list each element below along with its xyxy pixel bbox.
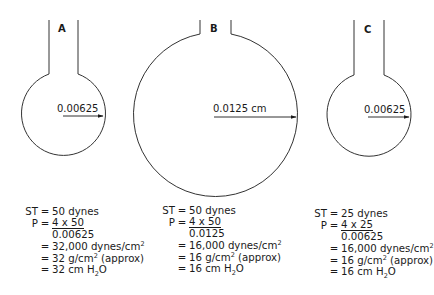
equals-sign: = [38,253,52,265]
bubble-c-letter: C [364,24,371,35]
bubble-a-radius-label: 0.00625 [57,103,98,114]
equals-sign: = [38,241,52,253]
surface-tension-value: 25 dynes [341,208,388,220]
result-dynes: 16,000 dynes/cm2 [341,243,434,255]
result-dynes: 16,000 dynes/cm2 [189,240,282,252]
fraction-denominator: 0.00625 [341,231,383,243]
equals-sign: = [175,252,189,264]
equals-sign: = [327,243,341,255]
result-dynes: 32,000 dynes/cm2 [52,241,145,253]
p-label: P [14,218,38,230]
fraction-denominator: 0.0125 [189,228,225,240]
bubble-c-radius-label: 0.00625 [364,104,405,115]
bubble-a-letter: A [58,23,66,34]
bubble-b-letter: B [210,23,218,34]
bubble-c: C 0.00625 [327,20,411,156]
st-label: ST [14,206,38,218]
st-label: ST [303,208,327,220]
equals-sign: = [327,220,341,232]
bubble-c-outline [327,20,411,156]
equals-sign: = [175,217,189,229]
equals-sign: = [175,240,189,252]
equals-sign: = [38,264,52,276]
result-cm-water: 16 cm H2O [341,266,396,278]
fraction-numerator: 4 x 50 [52,218,84,230]
calc-b: ST=50 dynes P=4 x 50 0.0125 =16,000 dyne… [151,205,282,275]
equals-sign: = [38,218,52,230]
equals-sign: = [38,206,52,218]
equals-sign: = [327,255,341,267]
equals-sign: = [327,208,341,220]
result-grams: 32 g/cm2 (approx) [52,253,144,265]
p-label: P [303,220,327,232]
equals-sign: = [175,205,189,217]
fraction-numerator: 4 x 25 [341,220,373,232]
equals-sign: = [327,266,341,278]
equals-sign: = [175,263,189,275]
result-cm-water: 16 cm H2O [189,263,244,275]
fraction-denominator: 0.00625 [52,229,94,241]
bubble-b: B 0.0125 cm [134,20,298,197]
bubble-a-outline [22,20,106,155]
result-grams: 16 g/cm2 (approx) [189,252,281,264]
surface-tension-value: 50 dynes [52,206,99,218]
calc-a: ST=50 dynes P=4 x 50 0.00625 =32,000 dyn… [14,206,145,276]
bubble-b-radius-label: 0.0125 cm [213,103,266,114]
calc-c: ST=25 dynes P=4 x 25 0.00625 =16,000 dyn… [303,208,434,278]
st-label: ST [151,205,175,217]
result-grams: 16 g/cm2 (approx) [341,255,433,267]
fraction-numerator: 4 x 50 [189,217,221,229]
bubble-a: A 0.00625 [22,20,106,155]
surface-tension-value: 50 dynes [189,205,236,217]
result-cm-water: 32 cm H2O [52,264,107,276]
p-label: P [151,217,175,229]
